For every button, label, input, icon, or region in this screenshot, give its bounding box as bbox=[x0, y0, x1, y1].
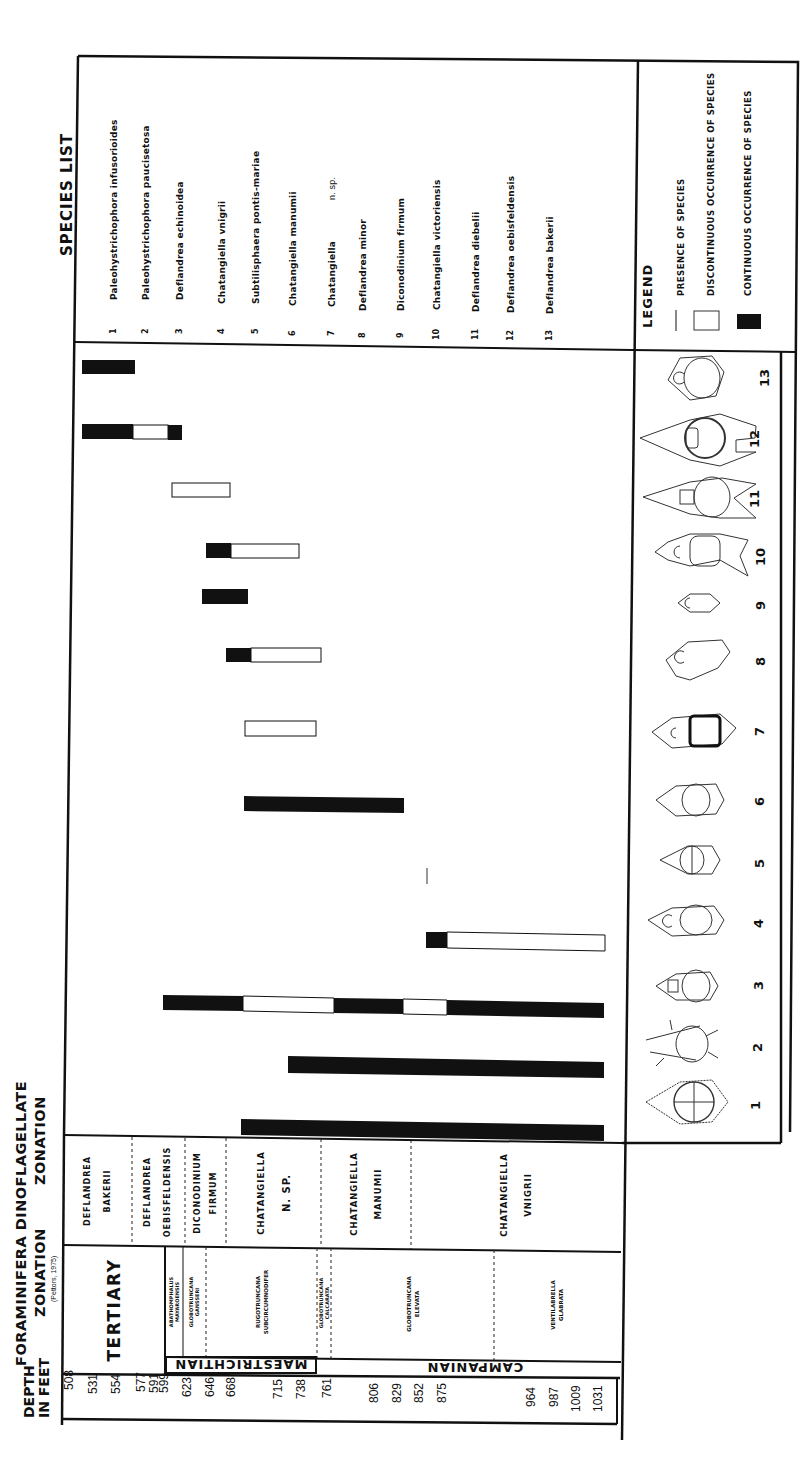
depth-tick: 646 bbox=[203, 1377, 217, 1397]
dinocyst-10-icon bbox=[655, 534, 748, 576]
dino-zone: DEFLANDREABAKERII bbox=[64, 1136, 132, 1245]
depth-tick: 738 bbox=[294, 1379, 308, 1399]
depth-tick: 761 bbox=[320, 1378, 334, 1398]
foram-zone: RUGOTRUNCANA SUBCIRCUMNODIFER bbox=[206, 1247, 317, 1357]
dinocyst-6-icon bbox=[656, 784, 724, 816]
depth-title: DEPTH IN FEET bbox=[22, 1358, 52, 1418]
dinocyst-12-icon bbox=[640, 414, 756, 466]
dino-zone: CHATANGIELLAVNIGRII bbox=[411, 1140, 621, 1249]
depth-tick: 715 bbox=[271, 1379, 285, 1399]
dino-title-2: ZONATION bbox=[32, 1096, 48, 1185]
drawing-label: 10 bbox=[753, 548, 768, 566]
foram-title-2: ZONATION bbox=[32, 1228, 48, 1317]
depth-tick: 1031 bbox=[591, 1385, 605, 1412]
dinocyst-8-icon bbox=[666, 640, 730, 680]
depth-tick: 599 bbox=[157, 1373, 171, 1393]
dinocyst-9-icon bbox=[678, 594, 720, 612]
dinocyst-11-icon bbox=[643, 477, 756, 518]
foram-dino-title: FORAMINIFERA DINOFLAGELLATE bbox=[14, 1081, 29, 1366]
drawing-label: 7 bbox=[752, 727, 767, 736]
drawing-label: 9 bbox=[753, 601, 768, 610]
dinocyst-7-icon bbox=[652, 714, 736, 748]
drawing-label: 3 bbox=[751, 981, 766, 990]
depth-tick: 875 bbox=[435, 1383, 449, 1403]
drawing-label: 12 bbox=[747, 430, 762, 448]
dinocyst-1-icon bbox=[646, 1080, 728, 1124]
depth-tick: 668 bbox=[224, 1377, 238, 1397]
foram-zone-tertiary: TERTIARY bbox=[63, 1246, 165, 1374]
foram-zone: ABATHOMPHALUS MAYAROENSIS bbox=[165, 1247, 183, 1357]
drawing-label: 8 bbox=[753, 657, 768, 666]
foram-citation: (Pettors, 1975) bbox=[50, 1256, 57, 1302]
foram-zone: GLOBOTRUNCANA ELEVATA bbox=[331, 1249, 494, 1359]
depth-tick: 554 bbox=[109, 1374, 123, 1394]
dino-zone: DEFLANDREAOEBISFELDENSIS bbox=[132, 1137, 185, 1246]
drawing-label: 2 bbox=[750, 1043, 765, 1052]
dino-zone: DICONODINIUMFIRMUM bbox=[185, 1138, 226, 1247]
foram-zone: GLOBOTRUNCANA GANSSERI bbox=[183, 1247, 206, 1357]
depth-tick: 531 bbox=[86, 1374, 100, 1394]
drawing-label: 5 bbox=[752, 859, 767, 868]
dino-zone: CHATANGIELLAMANUMII bbox=[321, 1139, 411, 1248]
depth-tick: 964 bbox=[524, 1387, 538, 1407]
foram-zone: GLOBOTRUNCANA CALCARATA bbox=[317, 1248, 331, 1358]
depth-tick: 987 bbox=[547, 1387, 561, 1407]
depth-tick: 829 bbox=[390, 1383, 404, 1403]
drawing-label: 1 bbox=[748, 1101, 763, 1110]
stage-maestrichtian: MAESTRICHTIAN bbox=[166, 1357, 316, 1373]
depth-tick: 623 bbox=[180, 1377, 194, 1397]
depth-tick: 806 bbox=[367, 1383, 381, 1403]
foram-zone: VENTILABRELLA GLABRATA bbox=[494, 1250, 620, 1360]
drawing-label: 11 bbox=[747, 490, 762, 508]
dinocyst-5-icon bbox=[660, 846, 720, 874]
dinocyst-13-icon bbox=[668, 356, 724, 400]
stage-campanian: CAMPANIAN bbox=[330, 1360, 620, 1376]
dinocyst-2-icon bbox=[646, 1020, 718, 1066]
drawing-label: 4 bbox=[751, 919, 766, 928]
dinocyst-3-icon bbox=[656, 970, 718, 1002]
drawing-label: 6 bbox=[752, 797, 767, 806]
depth-tick: 1009 bbox=[569, 1385, 583, 1412]
depth-tick: 852 bbox=[412, 1383, 426, 1403]
drawing-label: 13 bbox=[757, 369, 772, 387]
depth-tick: 508 bbox=[62, 1370, 76, 1390]
dino-zone: CHATANGIELLAN. SP. bbox=[226, 1138, 321, 1247]
dinocyst-4-icon bbox=[648, 905, 724, 936]
depth-tick: 577 bbox=[134, 1372, 148, 1392]
